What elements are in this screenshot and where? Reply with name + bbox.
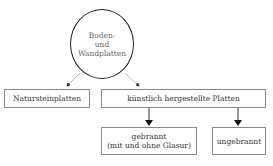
- node-ungebrannt: ungebrannt: [212, 127, 266, 155]
- root-node-circle: Boden- und Wandplatten: [70, 9, 134, 79]
- arrow-root-to-natursteinplatten: [67, 73, 80, 86]
- arrow-kuenstlich-to-gebrannt-head: [145, 120, 153, 126]
- node-natursteinplatten: Natursteinplatten: [4, 89, 90, 108]
- arrow-kuenstlich-to-ungebrannt-head: [234, 120, 242, 126]
- arrow-root-to-kuenstlich: [125, 73, 139, 86]
- node-gebrannt: gebrannt (mit und ohne Glasur): [101, 127, 197, 155]
- node-kuenstlich-hergestellte-platten: künstlich hergestellte Platten: [101, 89, 266, 108]
- root-node-label: Boden- und Wandplatten: [78, 31, 126, 58]
